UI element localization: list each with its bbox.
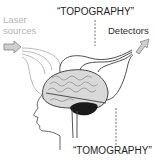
brain-illustration [43, 70, 108, 138]
laser-sources-label: Laser sources [3, 14, 36, 36]
topography-label: “TOPOGRAPHY” [57, 6, 134, 17]
arrow-up-right-icon [136, 39, 149, 54]
cerebellum [70, 102, 98, 115]
detectors-label: Detectors [108, 25, 149, 36]
tomography-label: “TOMOGRAPHY” [73, 145, 152, 156]
arrow-right-icon [4, 41, 21, 53]
laser-label-line2: sources [3, 25, 36, 36]
laser-label-line1: Laser [3, 14, 36, 25]
optical-imaging-diagram: Laser sources “TOPOGRAPHY” Detectors “TO… [0, 0, 155, 160]
